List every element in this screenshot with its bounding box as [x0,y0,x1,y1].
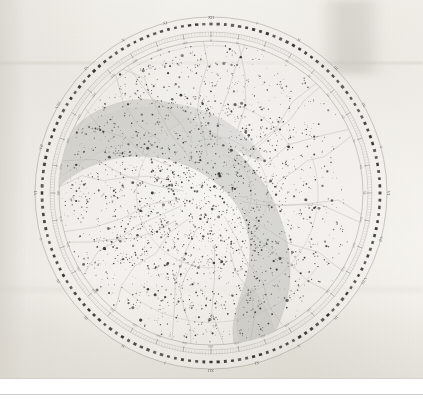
star-chart-page: XIIIIIIIIIVVVIVIIVIIIIXXXIXIIIIIIIIIVVVI… [0,0,423,405]
bottom-rule-line [0,394,423,395]
photo-bottom-margin [0,379,423,405]
sheet-edge-line [0,378,423,379]
planisphere-disc [0,0,423,405]
